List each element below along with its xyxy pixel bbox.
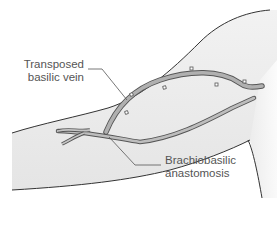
label-transposed-line2: basilic vein [22, 71, 84, 84]
leader-line-transposed [88, 69, 127, 100]
label-anastomosis-line2: anastomosis [165, 167, 236, 180]
label-anastomosis-line1: Brachiobasilic [165, 154, 236, 167]
label-transposed-basilic-vein: Transposed basilic vein [22, 58, 84, 84]
label-transposed-line1: Transposed [22, 58, 84, 71]
label-brachiobasilic-anastomosis: Brachiobasilic anastomosis [165, 154, 236, 180]
